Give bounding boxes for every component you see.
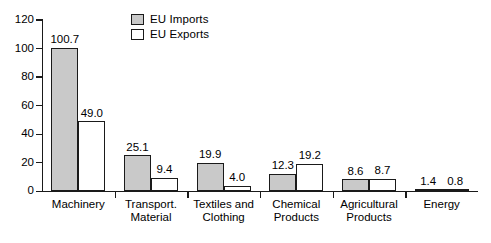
bar-value-label: 49.0 bbox=[70, 108, 113, 120]
x-axis-separator-tick bbox=[187, 192, 188, 198]
x-axis-category-label: Energy bbox=[393, 198, 490, 211]
bar-value-label: 9.4 bbox=[143, 164, 186, 176]
bar bbox=[224, 186, 251, 192]
bar bbox=[269, 174, 296, 192]
x-axis-separator-tick bbox=[260, 192, 261, 198]
bar-value-label: 19.9 bbox=[189, 149, 232, 161]
plot-area: 100.749.025.19.419.94.012.319.28.68.71.4… bbox=[0, 0, 491, 191]
bar bbox=[78, 121, 105, 191]
bar bbox=[51, 48, 78, 192]
bar bbox=[342, 179, 369, 191]
bar bbox=[369, 179, 396, 191]
bar-value-label: 25.1 bbox=[116, 142, 159, 154]
bar-value-label: 100.7 bbox=[43, 34, 86, 46]
x-axis-separator-tick bbox=[405, 192, 406, 198]
bar-chart: EU Imports EU Exports 020406080100120 10… bbox=[0, 0, 491, 243]
bar-value-label: 8.7 bbox=[361, 165, 404, 177]
bar bbox=[151, 178, 178, 191]
x-axis-separator-tick bbox=[333, 192, 334, 198]
x-axis-separator-tick bbox=[115, 192, 116, 198]
bar bbox=[296, 164, 323, 191]
bar-value-label: 4.0 bbox=[216, 172, 259, 184]
bar-value-label: 0.8 bbox=[434, 176, 477, 188]
bar bbox=[442, 189, 469, 191]
bar bbox=[415, 189, 442, 191]
bar-value-label: 19.2 bbox=[288, 150, 331, 162]
